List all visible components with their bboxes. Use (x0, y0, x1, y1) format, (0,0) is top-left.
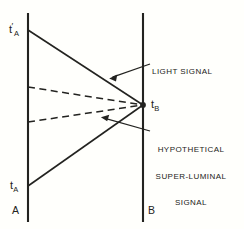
event-label-ta-sub: A (13, 185, 18, 194)
event-label-tb: tB (151, 99, 159, 110)
light-signal-arrowhead (109, 75, 117, 82)
superluminal-signal-line-upper (28, 87, 143, 105)
annotation-superluminal-signal-line-2: SUPER-LUMINAL (151, 172, 231, 183)
light-signal-line-lower (28, 105, 143, 186)
spacetime-signal-diagram: t′A tA tB A B LIGHT SIGNAL HYPOTHETICAL … (0, 0, 244, 229)
event-label-ta-prime-mark: ′ (11, 21, 13, 31)
annotation-superluminal-signal-line-1: HYPOTHETICAL (151, 145, 231, 156)
annotation-superluminal-signal-line-3: SIGNAL (151, 198, 231, 209)
event-label-ta-prime-sub: A (14, 29, 19, 38)
annotation-light-signal-line-1: LIGHT SIGNAL (152, 67, 212, 78)
event-marker-tb (140, 102, 146, 108)
annotation-superluminal-signal: HYPOTHETICAL SUPER-LUMINAL SIGNAL (151, 129, 231, 225)
superluminal-signal-arrowhead (101, 115, 109, 122)
worldline-label-a: A (12, 205, 19, 216)
superluminal-signal-line-lower (28, 105, 143, 122)
event-label-ta: tA (10, 180, 18, 191)
event-label-tb-sub: B (154, 104, 159, 113)
light-signal-line-upper (28, 30, 143, 105)
event-label-ta-prime: t′A (9, 24, 19, 35)
light-signal-leader (113, 64, 151, 77)
annotation-light-signal: LIGHT SIGNAL (152, 51, 212, 94)
